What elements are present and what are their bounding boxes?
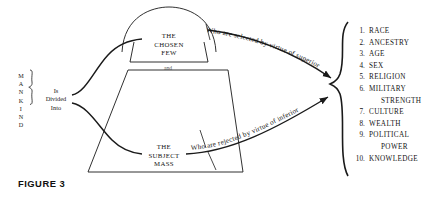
criteria-item: 6.STRENGTH [352,96,438,108]
criteria-item-number: 4. [352,61,369,73]
criteria-item: 8.WEALTH [352,119,438,131]
criteria-item: 1.RACE [352,26,438,38]
subject-mass-tick-2 [208,152,216,170]
criteria-item-label: STRENGTH [369,96,438,108]
criteria-item-number: 1. [352,26,369,38]
criteria-list: 1.RACE2.ANCESTRY3.AGE4.SEX5.RELIGION6.MI… [352,26,438,165]
criteria-item-number: 3. [352,49,369,61]
criteria-item-number: 9. [352,130,369,142]
criteria-item: 5.RELIGION [352,72,438,84]
criteria-item: 7.CULTURE [352,107,438,119]
criteria-item: 4.SEX [352,61,438,73]
criteria-item: 6.MILITARY [352,84,438,96]
criteria-item: 2.ANCESTRY [352,38,438,50]
criteria-item-label: RELIGION [369,72,438,84]
figure-diagram: Who are selected by virtue of superior W… [0,0,441,200]
criteria-item-label: POLITICAL [369,130,438,142]
mankind-letter: K [14,97,28,105]
criteria-item: 9.POWER [352,142,438,154]
connector-word: and [146,65,190,71]
mankind-letter: N [14,113,28,121]
criteria-item-label: KNOWLEDGE [369,154,438,166]
mankind-letter: M [14,72,28,80]
criteria-item-label: ANCESTRY [369,38,438,50]
criteria-item-number: 8. [352,119,369,131]
mankind-letter: A [14,80,28,88]
criteria-item-label: AGE [369,49,438,61]
caption-line: MASS [128,160,200,169]
criteria-item: 9.POLITICAL [352,130,438,142]
mankind-label: M A N K I N D [14,72,28,129]
criteria-item: 10.KNOWLEDGE [352,154,438,166]
mankind-letter: N [14,88,28,96]
criteria-item-number: 10. [352,154,369,166]
figure-label: FIGURE 3 [18,178,65,189]
rejection-criteria-label: Who are rejected by virtue of inferior [190,105,300,152]
caption-line: THE [133,32,205,41]
criteria-item-number: 7. [352,107,369,119]
criteria-item-number: 5. [352,72,369,84]
mankind-letter: I [14,105,28,113]
criteria-item-label: CULTURE [369,107,438,119]
chosen-few-caption: THE CHOSEN FEW [133,32,205,58]
criteria-item-number: 2. [352,38,369,50]
caption-line: FEW [133,49,205,58]
criteria-item-label: WEALTH [369,119,438,131]
criteria-brace [330,22,348,176]
mankind-letter: D [14,121,28,129]
criteria-item: 3.AGE [352,49,438,61]
divided-line: Into [36,104,76,112]
branch-curve-chosen-few [72,39,142,95]
criteria-item-label: MILITARY [369,84,438,96]
selection-criteria-label: Who are selected by virtue of superior [206,26,322,70]
divided-line: Is [36,87,76,95]
caption-line: SUBJECT [128,152,200,161]
divided-line: Divided [36,95,76,103]
criteria-item-label: RACE [369,26,438,38]
subject-mass-caption: THE SUBJECT MASS [128,143,200,169]
caption-line: THE [128,143,200,152]
criteria-item-number: 6. [352,84,369,96]
is-divided-into-label: Is Divided Into [36,87,76,112]
caption-line: CHOSEN [133,41,205,50]
criteria-item-label: SEX [369,61,438,73]
mankind-brace [29,70,32,104]
criteria-item-label: POWER [369,142,438,154]
